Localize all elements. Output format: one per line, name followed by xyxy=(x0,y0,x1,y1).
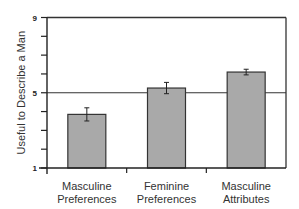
y-tick-label: 9 xyxy=(33,14,38,23)
bar-chart: 159Useful to Describe a Man xyxy=(0,0,299,209)
plot-area: 159Useful to Describe a Man xyxy=(15,14,286,175)
bar xyxy=(227,72,265,168)
y-tick-label: 5 xyxy=(33,89,38,98)
bar xyxy=(68,114,106,168)
x-category-label: Feminine Preferences xyxy=(127,180,207,206)
y-axis-label: Useful to Describe a Man xyxy=(15,31,27,155)
x-category-label: Masculine Preferences xyxy=(47,180,127,206)
y-tick-label: 1 xyxy=(33,164,38,173)
bar xyxy=(148,88,186,168)
x-category-label: Masculine Attributes xyxy=(206,180,286,206)
